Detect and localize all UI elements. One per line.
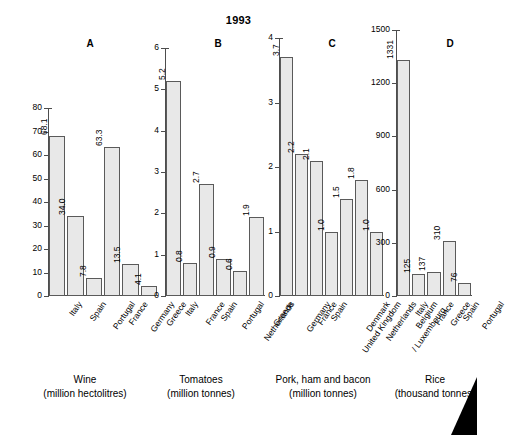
y-tick-label: 0 bbox=[385, 290, 390, 301]
bar: 125 bbox=[412, 274, 425, 296]
y-tick-label: 1200 bbox=[371, 77, 390, 88]
y-tick-label: 600 bbox=[376, 184, 390, 195]
bar-value-label: 125 bbox=[403, 259, 412, 273]
bar: 76 bbox=[458, 283, 471, 296]
y-tick-mark bbox=[392, 30, 397, 31]
corner-triangle-decoration bbox=[451, 377, 477, 435]
y-tick-label: 900 bbox=[376, 130, 390, 141]
y-tick-mark bbox=[392, 296, 397, 297]
bar-value-label: 310 bbox=[433, 226, 442, 240]
y-tick-label: 300 bbox=[376, 237, 390, 248]
bar-value-label: 1331 bbox=[385, 40, 394, 59]
bar: 137 bbox=[427, 272, 440, 296]
bar-value-label: 137 bbox=[418, 257, 427, 271]
caption-title: Rice bbox=[370, 373, 500, 387]
bar: 310 bbox=[443, 241, 456, 296]
caption-units: (thousand tonnes) bbox=[370, 387, 500, 401]
panel-caption-d: Rice(thousand tonnes) bbox=[370, 373, 500, 401]
x-category-label: Portugal bbox=[481, 300, 507, 331]
x-category-label: Italy bbox=[413, 300, 430, 318]
y-tick-label: 1500 bbox=[371, 24, 390, 35]
plot-area-d: 030060090012001500133112513731076 bbox=[396, 30, 472, 296]
bar-value-label: 76 bbox=[451, 272, 460, 281]
